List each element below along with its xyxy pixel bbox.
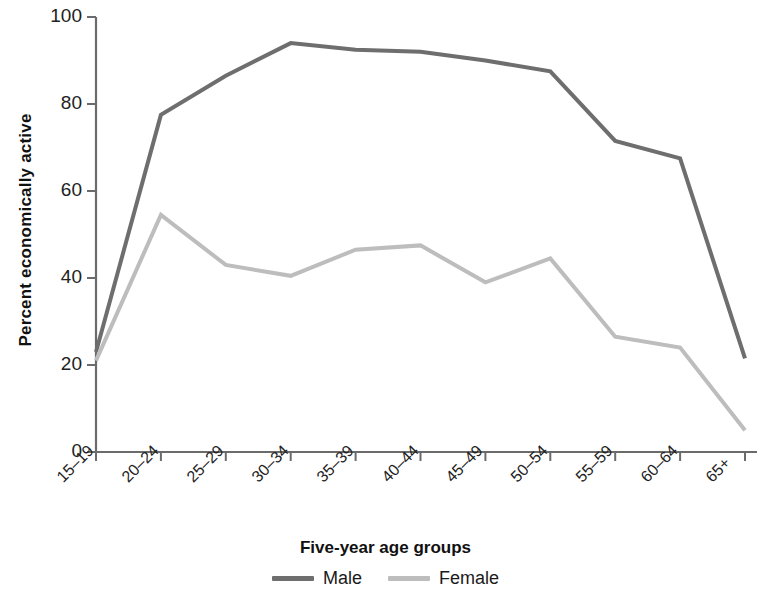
y-axis-tick-label: 100 xyxy=(36,6,82,25)
series-lines xyxy=(96,43,745,430)
x-axis-title: Five-year age groups xyxy=(0,538,771,558)
y-axis-tick-label: 60 xyxy=(36,180,82,199)
chart-figure: Percent economically active 020406080100… xyxy=(0,0,771,600)
y-axis-tick-label: 40 xyxy=(36,267,82,286)
series-line-female xyxy=(96,215,745,430)
legend-swatch-female xyxy=(388,576,430,581)
axis-lines xyxy=(96,17,757,452)
legend-swatch-male xyxy=(272,576,314,581)
y-axis-tick-label: 20 xyxy=(36,354,82,373)
legend-item-male[interactable]: Male xyxy=(272,568,362,589)
series-line-male xyxy=(96,43,745,358)
plot-area xyxy=(0,0,771,600)
legend-label: Male xyxy=(323,568,362,589)
legend-item-female[interactable]: Female xyxy=(388,568,499,589)
chart-legend: MaleFemale xyxy=(0,568,771,589)
y-axis-ticks xyxy=(87,17,96,452)
y-axis-tick-label: 80 xyxy=(36,93,82,112)
legend-label: Female xyxy=(439,568,499,589)
